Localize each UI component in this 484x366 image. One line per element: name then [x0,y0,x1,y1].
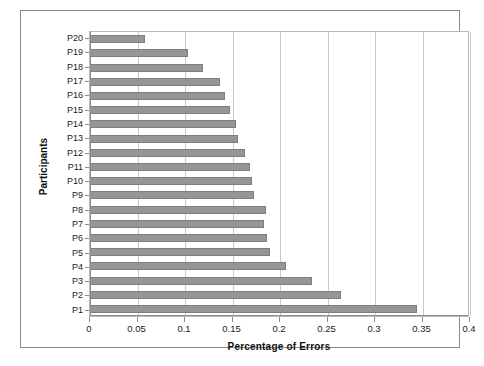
plot-area [89,31,469,317]
x-tick-label: 0.1 [177,323,190,334]
bar-p9[interactable] [90,191,254,199]
bar-p3[interactable] [90,277,312,285]
x-tick-label: 0.15 [222,323,241,334]
bar-row [90,217,468,231]
bar-row [90,188,468,202]
y-tick-label: P20 [41,31,87,45]
bar-p5[interactable] [90,248,270,256]
x-axis-tick-labels: 00.050.10.150.20.250.30.350.4 [89,323,469,337]
bar-row [90,46,468,60]
y-tick-label: P18 [41,60,87,74]
bar-p1[interactable] [90,305,417,313]
bar-p8[interactable] [90,206,266,214]
bar-row [90,288,468,302]
y-tick-label: P17 [41,74,87,88]
y-tick-label: P4 [41,260,87,274]
x-tick-label: 0.05 [127,323,146,334]
y-tick-label: P5 [41,245,87,259]
bar-p20[interactable] [90,35,145,43]
y-tick-label: P1 [41,303,87,317]
bar-p12[interactable] [90,149,245,157]
x-tick-label: 0.35 [412,323,431,334]
y-tick-label: P12 [41,145,87,159]
y-tick-label: P13 [41,131,87,145]
x-tick-label: 0.2 [272,323,285,334]
x-tick-mark [184,317,185,322]
x-tick-mark [422,317,423,322]
y-tick-label: P11 [41,160,87,174]
bar-row [90,245,468,259]
bar-p13[interactable] [90,135,238,143]
x-axis-title: Percentage of Errors [89,341,469,352]
gridline [470,32,471,316]
y-tick-label: P16 [41,88,87,102]
bar-row [90,103,468,117]
bar-p15[interactable] [90,106,230,114]
y-tick-label: P9 [41,188,87,202]
x-axis-line [90,315,468,316]
y-tick-label: P3 [41,274,87,288]
bar-p7[interactable] [90,220,264,228]
x-tick-label: 0 [86,323,91,334]
bar-row [90,60,468,74]
bar-row [90,202,468,216]
bar-row [90,231,468,245]
y-tick-label: P8 [41,203,87,217]
figure-frame: Participants P20P19P18P17P16P15P14P13P12… [20,10,460,348]
bar-p17[interactable] [90,78,220,86]
bar-p16[interactable] [90,92,225,100]
y-tick-label: P14 [41,117,87,131]
bar-row [90,75,468,89]
bar-p11[interactable] [90,163,250,171]
bar-row [90,273,468,287]
bar-row [90,131,468,145]
bar-p2[interactable] [90,291,341,299]
bar-p10[interactable] [90,177,252,185]
y-tick-label: P19 [41,45,87,59]
x-tick-mark [327,317,328,322]
bar-row [90,117,468,131]
y-tick-label: P15 [41,102,87,116]
x-tick-mark [469,317,470,322]
chart-page: Participants P20P19P18P17P16P15P14P13P12… [0,0,484,366]
y-tick-label: P2 [41,288,87,302]
bar-row [90,302,468,316]
x-tick-mark [279,317,280,322]
y-tick-label: P6 [41,231,87,245]
bar-row [90,174,468,188]
x-axis-tick-marks [89,317,469,322]
x-tick-label: 0.4 [462,323,475,334]
x-tick-mark [374,317,375,322]
bars-layer [90,32,468,316]
y-axis-line [90,32,91,316]
bar-row [90,160,468,174]
bar-row [90,146,468,160]
bar-p4[interactable] [90,262,286,270]
y-tick-label: P10 [41,174,87,188]
bar-row [90,32,468,46]
bar-p18[interactable] [90,64,203,72]
x-tick-label: 0.3 [367,323,380,334]
x-tick-mark [232,317,233,322]
bar-p19[interactable] [90,49,188,57]
bar-p6[interactable] [90,234,267,242]
x-tick-mark [137,317,138,322]
y-tick-label: P7 [41,217,87,231]
y-axis-tick-labels: P20P19P18P17P16P15P14P13P12P11P10P9P8P7P… [41,31,87,317]
bar-p14[interactable] [90,120,236,128]
bar-row [90,89,468,103]
bar-row [90,259,468,273]
x-tick-mark [89,317,90,322]
x-tick-label: 0.25 [317,323,336,334]
